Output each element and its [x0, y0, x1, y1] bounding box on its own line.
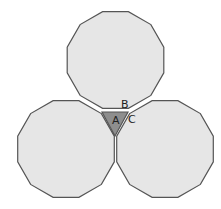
- dodecagon-tiling-diagram: A B C: [0, 0, 221, 209]
- label-a: A: [112, 114, 120, 127]
- left-dodecagon: [18, 101, 115, 198]
- dodecagons-group: [18, 12, 214, 198]
- top-dodecagon: [67, 12, 164, 109]
- label-b: B: [121, 98, 129, 111]
- label-c: C: [128, 113, 136, 126]
